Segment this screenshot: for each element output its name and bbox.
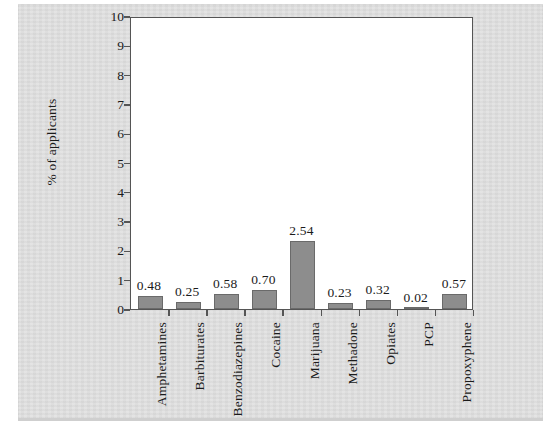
x-axis-tick-mark <box>206 310 207 316</box>
y-axis-tick-mark <box>124 309 130 310</box>
x-axis-tick-mark <box>397 310 398 316</box>
bar <box>176 302 201 309</box>
y-axis-tick-mark <box>124 192 130 193</box>
y-axis-tick-mark <box>124 251 130 252</box>
bar-value-label: 0.02 <box>386 290 446 306</box>
y-axis-tick-label: 9 <box>117 38 124 54</box>
plot-area <box>131 18 472 309</box>
bar <box>442 294 467 309</box>
bar <box>252 290 277 309</box>
bar-value-label: 0.70 <box>233 272 293 288</box>
x-axis-tick-mark <box>321 310 322 316</box>
x-axis-category-label: Opiates <box>383 322 399 365</box>
y-axis-tick-labels: 109876543210 <box>100 17 124 310</box>
x-axis-category-label: Methadone <box>345 322 361 385</box>
y-axis-tick-label: 2 <box>117 243 124 259</box>
y-axis-tick-label: 5 <box>117 156 124 172</box>
x-axis-tick-mark <box>359 310 360 316</box>
x-axis-category-label: Cocaine <box>268 322 284 368</box>
y-axis-tick-label: 0 <box>117 302 124 318</box>
y-axis-tick-label: 7 <box>117 97 124 113</box>
x-axis-tick-mark <box>244 310 245 316</box>
x-axis-category-label: PCP <box>421 322 437 347</box>
bar <box>214 294 239 309</box>
y-axis-tick-label: 8 <box>117 68 124 84</box>
x-axis-category-label: Amphetamines <box>154 322 170 406</box>
bar <box>328 303 353 309</box>
y-axis-tick-label: 3 <box>117 214 124 230</box>
bar-value-label: 0.57 <box>424 276 484 292</box>
y-axis-tick-mark <box>124 221 130 222</box>
y-axis-tick-label: 10 <box>111 9 125 25</box>
y-axis-tick-mark <box>124 163 130 164</box>
y-axis-tick-label: 6 <box>117 126 124 142</box>
y-axis-tick-mark <box>124 46 130 47</box>
y-axis-tick-mark <box>124 134 130 135</box>
bar <box>404 307 429 309</box>
x-axis-category-label: Benzodiazepines <box>230 322 246 416</box>
x-axis-category-label: Barbiturates <box>192 322 208 390</box>
x-axis-category-label: Propoxyphene <box>459 322 475 402</box>
y-axis-tick-mark <box>124 16 130 17</box>
x-axis-tick-mark <box>168 310 169 316</box>
plot-frame <box>130 17 473 310</box>
x-axis-tick-mark <box>473 310 474 316</box>
bar-value-label: 2.54 <box>272 223 332 239</box>
y-axis-tick-mark <box>124 75 130 76</box>
y-axis-tick-label: 4 <box>117 185 124 201</box>
y-axis-tick-mark <box>124 104 130 105</box>
scanned-page-bottom-edge <box>18 418 543 421</box>
x-axis-tick-mark <box>282 310 283 316</box>
x-axis-tick-mark <box>435 310 436 316</box>
y-axis-title: % of applicants <box>44 82 60 202</box>
x-axis-category-label: Marijuana <box>307 322 323 379</box>
